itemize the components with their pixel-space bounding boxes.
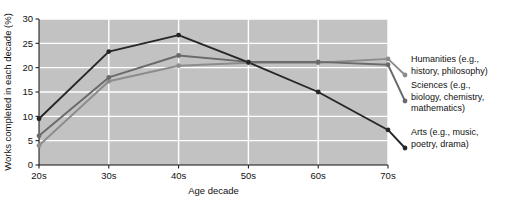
legend-series-label: Humanities (e.g.,: [411, 54, 479, 64]
data-point-marker: [176, 33, 181, 38]
y-axis-tick-label: 30: [22, 13, 33, 24]
data-point-marker: [106, 49, 111, 54]
legend-series-label: mathematics): [411, 103, 465, 113]
legend-series-label: poetry, drama): [411, 139, 469, 149]
line-chart: 05101520253020s30s40s50s60s70sAge decade…: [0, 0, 520, 218]
y-axis-tick-label: 15: [22, 86, 33, 97]
data-point-marker: [176, 53, 181, 58]
x-axis-tick-label: 70s: [380, 170, 396, 181]
x-axis-tick-label: 40s: [171, 170, 187, 181]
data-point-marker: [386, 57, 391, 62]
chart-figure: 05101520253020s30s40s50s60s70sAge decade…: [0, 0, 520, 218]
data-point-marker: [37, 116, 42, 121]
y-axis-tick-label: 0: [28, 159, 33, 170]
legend-series-label: Arts (e.g., music,: [411, 127, 479, 137]
data-point-marker: [176, 63, 181, 68]
y-axis-tick-label: 20: [22, 62, 33, 73]
data-point-marker: [37, 133, 42, 138]
data-point-marker: [106, 75, 111, 80]
data-point-marker: [386, 128, 391, 133]
y-axis-title: Works completed in each decade (%): [2, 13, 13, 171]
legend-marker: [403, 99, 408, 104]
legend-marker: [403, 146, 408, 151]
data-point-marker: [246, 60, 251, 65]
y-axis-tick-label: 25: [22, 38, 33, 49]
legend-series-label: history, philosophy): [411, 66, 488, 76]
data-point-marker: [37, 143, 42, 148]
x-axis-tick-label: 30s: [101, 170, 117, 181]
data-point-marker: [316, 59, 321, 64]
x-axis-tick-label: 20s: [31, 170, 47, 181]
legend-marker: [403, 73, 408, 78]
legend-series-label: Sciences (e.g.,: [411, 80, 471, 90]
data-point-marker: [316, 90, 321, 95]
x-axis-tick-label: 60s: [311, 170, 327, 181]
y-axis-tick-label: 5: [28, 135, 33, 146]
y-axis-tick-label: 10: [22, 111, 33, 122]
data-point-marker: [386, 62, 391, 67]
legend-series-label: biology, chemistry,: [411, 92, 484, 102]
x-axis-tick-label: 50s: [241, 170, 257, 181]
x-axis-title: Age decade: [188, 185, 239, 196]
